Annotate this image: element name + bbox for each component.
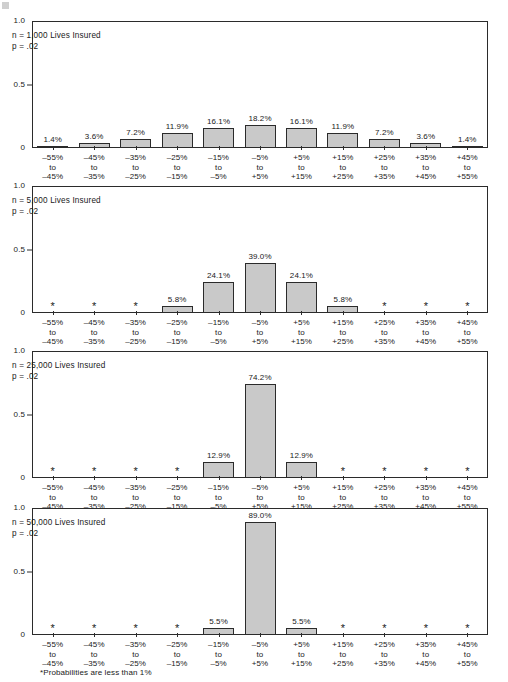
x-axis-tick-label-line: to xyxy=(156,163,197,173)
below-threshold-marker: * xyxy=(133,469,137,474)
x-axis-tick: +35%to+45% xyxy=(405,150,446,182)
x-axis-tick-label-line: –45% xyxy=(73,483,114,493)
x-axis-tick-label-line: +55% xyxy=(447,337,488,347)
bar-slot: 24.1% xyxy=(286,186,317,313)
x-axis-tick-label-line: +45% xyxy=(405,172,446,182)
x-axis-tick-label-line: to xyxy=(198,163,239,173)
x-axis-tick-label-line: –25% xyxy=(156,153,197,163)
x-axis-tick: –35%to–25% xyxy=(115,480,156,512)
bar-value-label: 39.0% xyxy=(248,253,271,261)
x-axis-tick: –55%to–45% xyxy=(32,315,73,347)
chart-panel: 00.51.0n = 5,000 Lives Insuredp = .02***… xyxy=(0,186,508,353)
x-axis-tick: +5%to+15% xyxy=(281,637,322,669)
x-axis-tick-label-line: to xyxy=(281,163,322,173)
x-axis-tick-label-line: –15% xyxy=(156,337,197,347)
x-axis-tick-label-line: to xyxy=(156,650,197,660)
x-axis-tick-label-line: –5% xyxy=(239,640,280,650)
bar-slot: * xyxy=(410,351,441,478)
bar-slot: 24.1% xyxy=(203,186,234,313)
x-axis-tick-label-line: to xyxy=(322,163,363,173)
below-threshold-marker: * xyxy=(424,626,428,631)
x-axis-tick: +25%to+35% xyxy=(364,150,405,182)
bar-slot: 5.5% xyxy=(203,508,234,635)
bar-slot: * xyxy=(120,508,151,635)
x-axis-tick-label-line: +25% xyxy=(364,483,405,493)
bar-slot: 16.1% xyxy=(203,21,234,148)
x-axis-tick-label-line: +5% xyxy=(281,483,322,493)
x-axis-tick: –35%to–25% xyxy=(115,637,156,669)
x-axis-tick-label-line: –15% xyxy=(156,172,197,182)
x-axis-tick-label-line: to xyxy=(281,650,322,660)
x-axis-tick-mark xyxy=(94,146,95,150)
x-axis-tick-label-line: –35% xyxy=(73,337,114,347)
x-axis-tick-label-line: to xyxy=(73,493,114,503)
bar-slot: 1.4% xyxy=(452,21,483,148)
x-axis-tick-label-line: +45% xyxy=(447,483,488,493)
x-axis-tick: –15%to–5% xyxy=(198,150,239,182)
x-axis-tick-label-line: +55% xyxy=(447,172,488,182)
x-axis-tick-label-line: to xyxy=(364,650,405,660)
x-axis-tick-label-line: –5% xyxy=(198,659,239,669)
x-axis-tick-mark xyxy=(53,146,54,150)
x-axis-tick-label-line: –55% xyxy=(32,318,73,328)
below-threshold-marker: * xyxy=(465,626,469,631)
x-axis-tick-label-line: +25% xyxy=(364,640,405,650)
x-axis-tick-label-line: to xyxy=(32,163,73,173)
bar-slot: 12.9% xyxy=(203,351,234,478)
bar-slot: 12.9% xyxy=(286,351,317,478)
x-axis-tick-label-line: +5% xyxy=(239,659,280,669)
bar-slot: * xyxy=(369,508,400,635)
x-axis-tick-label-line: –5% xyxy=(198,172,239,182)
x-axis-tick-label-line: +25% xyxy=(322,337,363,347)
y-axis-tick-label: 1.0 xyxy=(14,182,25,190)
bar-slot: * xyxy=(410,508,441,635)
x-axis-tick-label-line: +25% xyxy=(364,153,405,163)
footnote: *Probabilities are less than 1% xyxy=(40,668,152,677)
x-axis-tick-label-line: –25% xyxy=(115,172,156,182)
bar-value-label: 5.5% xyxy=(209,618,228,626)
x-axis-tick: –5%to+5% xyxy=(239,637,280,669)
x-axis-tick-label-line: +5% xyxy=(281,640,322,650)
y-axis-tick-label: 0.5 xyxy=(14,246,25,254)
x-axis-tick-label-line: +45% xyxy=(405,659,446,669)
below-threshold-marker: * xyxy=(382,626,386,631)
x-axis-tick: +15%to+25% xyxy=(322,150,363,182)
x-axis-tick-label-line: to xyxy=(405,328,446,338)
x-axis-tick-label-line: –25% xyxy=(156,483,197,493)
bar-slot: * xyxy=(120,186,151,313)
below-threshold-marker: * xyxy=(92,469,96,474)
x-axis-tick-mark xyxy=(467,633,468,637)
x-axis-tick-label-line: to xyxy=(239,328,280,338)
bar-slot: 3.6% xyxy=(79,21,110,148)
x-axis-tick-label-line: to xyxy=(322,328,363,338)
bar-value-label: 1.4% xyxy=(458,136,477,144)
x-axis-tick: +45%to+55% xyxy=(447,315,488,347)
x-axis-tick: –25%to–15% xyxy=(156,637,197,669)
bar-slot: 5.8% xyxy=(327,186,358,313)
x-axis-tick-mark xyxy=(301,146,302,150)
x-axis-tick-mark xyxy=(94,476,95,480)
x-axis-tick-mark xyxy=(219,146,220,150)
bar xyxy=(245,522,276,635)
x-axis-tick-label-line: +25% xyxy=(364,318,405,328)
bar-slot: * xyxy=(120,351,151,478)
x-axis-tick-label-line: to xyxy=(281,328,322,338)
x-axis-tick-label-line: to xyxy=(198,328,239,338)
bar-value-label: 12.9% xyxy=(207,452,230,460)
x-axis-tick-label-line: to xyxy=(405,650,446,660)
bar-slot: * xyxy=(162,351,193,478)
x-axis-tick-label-line: +45% xyxy=(447,640,488,650)
x-axis-tick-label-line: to xyxy=(115,650,156,660)
x-axis-tick-mark xyxy=(260,311,261,315)
below-threshold-marker: * xyxy=(424,469,428,474)
y-axis-tick-label: 0.5 xyxy=(14,81,25,89)
y-axis-tick-label: 0 xyxy=(20,144,25,152)
bar-slot: 5.5% xyxy=(286,508,317,635)
bar-value-label: 18.2% xyxy=(248,115,271,123)
x-axis-tick: –25%to–15% xyxy=(156,315,197,347)
x-axis-tick-mark xyxy=(343,633,344,637)
x-axis-tick: –35%to–25% xyxy=(115,315,156,347)
below-threshold-marker: * xyxy=(341,626,345,631)
x-axis-tick-mark xyxy=(384,476,385,480)
scan-artifact xyxy=(2,2,9,9)
